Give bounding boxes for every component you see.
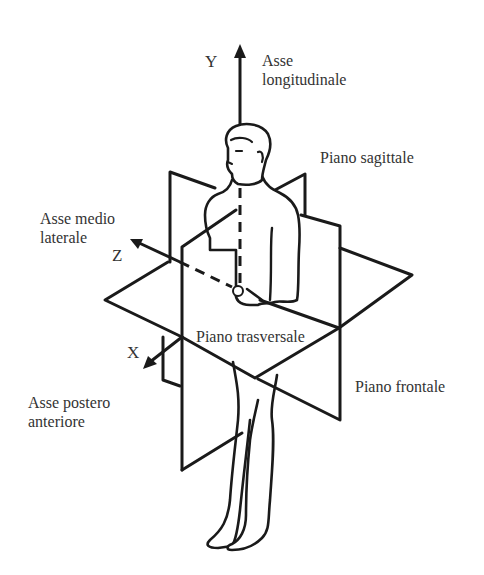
torso [205,176,300,305]
y-axis-label-line2: longitudinale [262,70,346,89]
y-axis-arrowhead-icon [234,44,246,58]
y-axis-label-line1: Asse [262,51,346,70]
sagittal-plane-label: Piano sagittale [320,148,414,167]
z-axis-label-line1: Asse medio [40,209,115,228]
z-axis-label-line2: laterale [40,228,115,247]
x-axis-label-line2: anteriore [28,412,110,431]
x-axis-label-line1: Asse postero [28,393,110,412]
z-axis-label: Asse medio laterale [40,209,115,247]
y-axis-letter: Y [205,52,217,71]
frontal-plane-label: Piano frontale [355,377,445,396]
anatomical-planes-diagram [0,0,484,575]
y-axis [234,44,246,128]
z-axis-letter: Z [112,246,122,265]
y-axis-label: Asse longitudinale [262,51,346,89]
left-leg [208,362,250,548]
head [226,124,270,185]
transverse-plane-label: Piano trasversale [196,327,305,346]
x-axis-label: Asse postero anteriore [28,393,110,431]
x-axis-letter: X [127,343,139,362]
